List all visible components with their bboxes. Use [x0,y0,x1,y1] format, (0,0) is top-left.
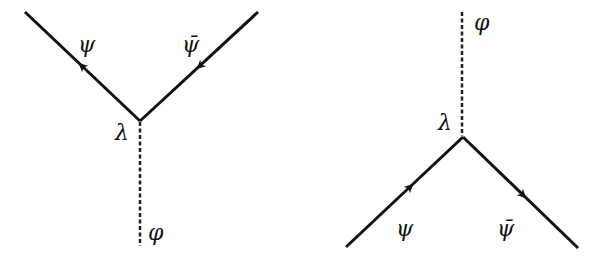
diagram-left: ψ ψ̄ λ φ [25,12,258,246]
fermion-line-psi [25,12,140,121]
label-psi: ψ [396,216,414,241]
label-psi: ψ [78,32,96,57]
feynman-diagrams: ψ ψ̄ λ φ φ λ ψ ψ̄ [0,0,599,264]
label-phi: φ [148,220,164,245]
fermion-line-psibar [463,137,578,248]
label-phi: φ [474,10,490,35]
label-psibar: ψ̄ [497,216,515,241]
diagram-right: φ λ ψ ψ̄ [346,10,578,248]
label-psibar: ψ̄ [182,32,200,57]
label-lambda: λ [114,120,129,145]
fermion-line-psibar [140,12,258,121]
label-lambda: λ [437,110,452,135]
